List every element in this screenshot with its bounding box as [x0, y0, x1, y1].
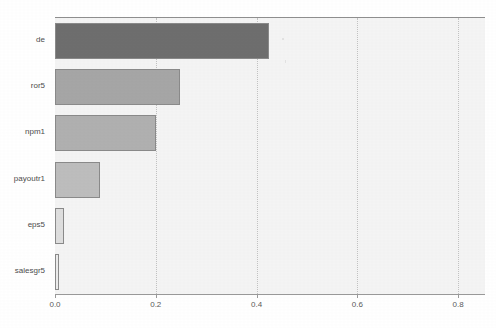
bar-row	[55, 162, 485, 198]
bar[interactable]	[55, 208, 64, 244]
bar-row	[55, 115, 485, 151]
bar-row	[55, 254, 485, 290]
gridline	[357, 18, 358, 294]
x-tick-mark	[357, 294, 358, 298]
plot-area	[55, 17, 485, 294]
x-axis-line	[55, 294, 485, 295]
bar[interactable]	[55, 254, 59, 290]
gridline	[156, 18, 157, 294]
bar[interactable]	[55, 115, 156, 151]
category-label: eps5	[0, 220, 49, 229]
bar[interactable]	[55, 69, 180, 105]
x-tick-mark	[458, 294, 459, 298]
x-tick-label: 0.2	[150, 300, 161, 309]
x-tick-mark	[257, 294, 258, 298]
x-tick-label: 0.0	[49, 300, 60, 309]
gridline	[458, 18, 459, 294]
x-tick-label: 0.8	[452, 300, 463, 309]
x-tick-mark	[55, 294, 56, 298]
x-tick-label: 0.4	[251, 300, 262, 309]
bar-row	[55, 208, 485, 244]
chart-title	[0, 0, 496, 6]
category-label: ror5	[0, 81, 49, 90]
bar-row	[55, 69, 485, 105]
gridline	[257, 18, 258, 294]
chart-figure: 0.00.20.40.60.8 deror5npm1payoutr1eps5sa…	[0, 0, 496, 328]
bar[interactable]	[55, 162, 100, 198]
x-tick-mark	[156, 294, 157, 298]
x-tick-label: 0.6	[352, 300, 363, 309]
category-label: npm1	[0, 127, 49, 136]
category-label: payoutr1	[0, 174, 49, 183]
category-label: salesgr5	[0, 266, 49, 275]
category-label: de	[0, 35, 49, 44]
bar[interactable]	[55, 23, 269, 59]
bar-row	[55, 23, 485, 59]
